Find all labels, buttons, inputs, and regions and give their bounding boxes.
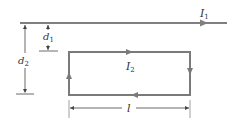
wire-loop-diagram: I1 I2 d1 d2 l xyxy=(0,0,236,124)
loop-arrow-bottom-icon xyxy=(131,92,138,98)
loop-arrow-top-icon xyxy=(126,49,133,55)
l-label: l xyxy=(127,102,131,115)
d2-label: d2 xyxy=(18,55,29,68)
loop-current-label: I2 xyxy=(125,60,135,74)
loop-arrow-left-icon xyxy=(66,72,72,79)
straight-wire xyxy=(20,20,227,27)
loop-arrow-right-icon xyxy=(187,68,193,75)
d1-label: d1 xyxy=(43,31,54,44)
wire-current-label: I1 xyxy=(199,7,209,21)
